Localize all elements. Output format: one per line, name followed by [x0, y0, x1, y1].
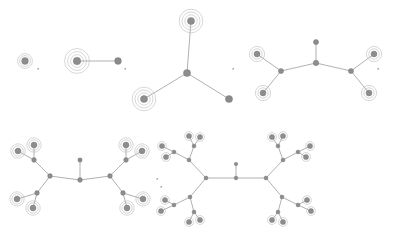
graph-6-symmetric-tree-depth-three	[157, 132, 316, 227]
graph-node-branch	[35, 191, 40, 196]
figure-canvas: ,,,,,,	[0, 0, 402, 231]
graph-edge	[257, 54, 281, 71]
graph-node-leaf	[124, 205, 130, 211]
graph-node-branch	[188, 195, 192, 199]
graph-node-leaf	[123, 142, 129, 148]
graph-edge	[316, 63, 351, 71]
graph-node-branch	[296, 150, 300, 154]
graph-node-leaf	[197, 134, 202, 139]
graph-edge	[278, 197, 282, 212]
graph-node-branch	[204, 176, 208, 180]
graph-sequence-figure	[0, 0, 402, 231]
graph-node-branch	[124, 158, 129, 163]
comma-3: ,	[232, 62, 234, 71]
graph-edge	[189, 160, 206, 178]
graph-edge	[281, 63, 316, 71]
graph-node-branch	[264, 176, 268, 180]
graph-node-leaf	[371, 51, 377, 57]
graph-node-leaf	[159, 143, 164, 148]
graph-edge	[34, 160, 50, 176]
graph-edge	[80, 176, 110, 180]
graph-edge	[174, 152, 189, 160]
comma-5: ,	[160, 180, 162, 189]
graph-node-branch	[192, 144, 196, 148]
graph-edge	[190, 178, 206, 197]
comma-2: ,	[124, 62, 126, 71]
graph-node-branch	[121, 191, 126, 196]
graph-edge	[189, 146, 194, 160]
graph-node-leaf	[140, 196, 146, 202]
graph-edge	[174, 197, 190, 205]
graph-2-two-node-edge	[65, 49, 122, 74]
graph-node-plain	[225, 95, 232, 102]
graph-node-leaf	[31, 142, 37, 148]
graph-edge	[266, 160, 283, 178]
graph-node-plain	[234, 162, 238, 166]
graph-edge	[144, 73, 187, 99]
graph-node-leaf	[269, 217, 274, 222]
graph-node-branch	[281, 158, 285, 162]
graph-node-leaf	[280, 219, 285, 224]
graph-node-leaf	[162, 197, 167, 202]
graph-5-symmetric-tree-depth-two	[10, 138, 150, 215]
graph-edge	[50, 176, 80, 180]
graph-node-leaf	[254, 51, 260, 57]
graph-node-leaf	[140, 95, 147, 102]
graph-node-branch	[32, 158, 37, 163]
graph-node-leaf	[308, 208, 313, 213]
graph-node-leaf	[187, 17, 194, 24]
graph-edge	[110, 160, 126, 176]
graph-node-center	[313, 60, 319, 66]
graph-node-leaf	[163, 154, 168, 159]
graph-node-leaf	[15, 148, 21, 154]
graph-edge	[283, 152, 298, 160]
graph-edge	[282, 197, 298, 205]
graph-edge	[266, 178, 282, 197]
graph-node-leaf	[307, 143, 312, 148]
graph-node-plain	[313, 39, 318, 44]
graph-edge	[278, 146, 283, 160]
graph-node-leaf	[269, 134, 274, 139]
graph-node-leaf	[303, 154, 308, 159]
graph-node-leaf	[260, 90, 266, 96]
graph-edge	[110, 176, 123, 193]
graph-node-branch	[348, 68, 353, 73]
graph-edge	[187, 21, 191, 73]
graph-edge	[351, 54, 374, 71]
graph-node-plain	[115, 58, 122, 65]
graph-4-caterpillar-seven-node	[249, 39, 381, 100]
comma-6: ,	[156, 172, 158, 181]
graph-node-leaf	[73, 57, 81, 65]
graph-node-leaf	[366, 90, 372, 96]
graph-node-leaf	[186, 219, 191, 224]
graph-node-leaf	[139, 148, 145, 154]
graph-node-leaf	[280, 133, 285, 138]
graph-node-leaf	[30, 205, 36, 211]
graph-node-branch	[276, 210, 280, 214]
graph-1-single-haloed-node	[18, 54, 33, 69]
graph-node-branch	[172, 203, 176, 207]
graph-node-plain	[78, 158, 82, 162]
graph-node-leaf	[22, 58, 29, 65]
graph-node-branch	[278, 68, 283, 73]
graph-node-leaf	[14, 196, 20, 202]
graph-node-branch	[108, 174, 113, 179]
graph-node-leaf	[186, 133, 191, 138]
graph-edge	[37, 176, 50, 193]
graph-node-branch	[280, 195, 284, 199]
graph-node-branch	[296, 203, 300, 207]
graph-node-leaf	[158, 208, 163, 213]
graph-node-center	[183, 69, 190, 76]
graph-node-branch	[192, 210, 196, 214]
graph-edge	[351, 71, 369, 93]
graph-node-branch	[276, 144, 280, 148]
graph-node-center	[78, 178, 83, 183]
graph-node-branch	[48, 174, 53, 179]
graph-node-leaf	[304, 197, 309, 202]
comma-4: ,	[377, 62, 379, 71]
graph-edge	[190, 197, 194, 212]
graph-node-leaf	[197, 217, 202, 222]
graph-edge	[187, 73, 229, 99]
graph-3-three-branch-star	[132, 9, 232, 111]
graph-node-branch	[187, 158, 191, 162]
